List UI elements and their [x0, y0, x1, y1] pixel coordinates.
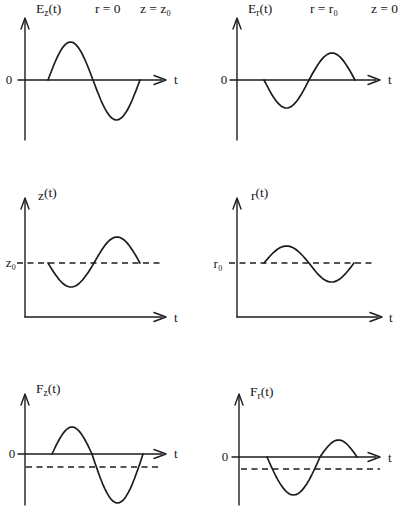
- panel-ez-title: Ez(t): [36, 1, 61, 18]
- panel-ez-waveform: [48, 42, 140, 120]
- panel-fr-zero-label: 0: [222, 449, 229, 464]
- panel-fz-zero-label: 0: [9, 446, 16, 461]
- panel-er-condition-z: z = 0: [371, 1, 398, 16]
- panel-ez-t-label: t: [174, 72, 178, 87]
- panel-er: Er(t) r = r₀ z = 0 0 t: [221, 1, 399, 140]
- panel-fr: Fr(t) 0 t: [222, 384, 392, 505]
- panel-ez-condition-z: z = z₀: [140, 1, 171, 16]
- figure-six-waveform-panels: Ez(t) r = 0 z = z₀ 0 t Er(t) r = r₀ z = …: [0, 0, 404, 506]
- panel-z-waveform: [48, 237, 140, 287]
- panel-fz-waveform: [52, 427, 143, 503]
- panel-r-waveform: [264, 246, 354, 282]
- panel-er-condition-r: r = r₀: [310, 1, 338, 16]
- panel-ez-zero-label: 0: [6, 72, 13, 87]
- panel-z: z(t) z₀ t: [6, 185, 178, 325]
- panel-r-r0-label: r₀: [214, 256, 223, 271]
- panel-er-title: Er(t): [248, 1, 272, 18]
- panel-z-z0-label: z₀: [6, 255, 16, 270]
- panel-z-t-label: t: [174, 310, 178, 325]
- panel-fr-waveform: [267, 440, 357, 495]
- panel-ez: Ez(t) r = 0 z = z₀ 0 t: [6, 1, 178, 140]
- panel-er-zero-label: 0: [221, 72, 228, 87]
- panel-fz-title: Fz(t): [36, 381, 60, 398]
- panel-ez-condition-r: r = 0: [95, 1, 121, 16]
- panel-z-title: z(t): [38, 185, 57, 203]
- panel-fr-t-label: t: [388, 450, 392, 465]
- panel-fr-title: Fr(t): [250, 384, 273, 401]
- panel-r: r(t) r₀ t: [214, 185, 393, 325]
- panel-r-title: r(t): [251, 185, 268, 203]
- panel-fz-t-label: t: [174, 446, 178, 461]
- panel-fz: Fz(t) 0 t: [9, 381, 178, 505]
- panel-r-t-label: t: [389, 310, 393, 325]
- panel-er-t-label: t: [388, 72, 392, 87]
- figure-canvas: Ez(t) r = 0 z = z₀ 0 t Er(t) r = r₀ z = …: [0, 0, 404, 506]
